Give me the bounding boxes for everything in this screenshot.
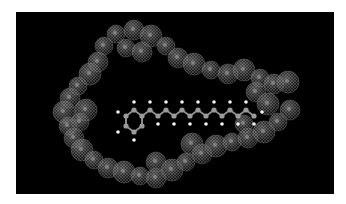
molecule-viewport (16, 12, 334, 194)
molecule-render (16, 12, 334, 194)
host-macrocycle-surface (53, 20, 300, 188)
guest-bonds (126, 110, 254, 132)
